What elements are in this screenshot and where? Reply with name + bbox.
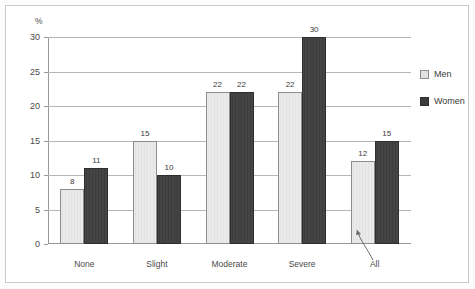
dark-gray-swatch-icon: [420, 97, 429, 106]
bar-all-women: [375, 141, 399, 245]
y-tick-mark: [44, 244, 48, 245]
legend-label-women: Women: [434, 97, 465, 106]
bar-moderate-men: [206, 92, 230, 244]
legend-item-men: Men: [420, 70, 472, 79]
x-category-label-moderate: Moderate: [190, 260, 270, 269]
y-tick-mark: [44, 141, 48, 142]
gridline: [48, 37, 411, 38]
y-tick-mark: [44, 72, 48, 73]
x-category-label-severe: Severe: [262, 260, 342, 269]
bar-all-men: [351, 161, 375, 244]
y-tick-label: 10: [6, 171, 40, 180]
bar-none-men: [60, 189, 84, 244]
gridline: [48, 72, 411, 73]
legend: Men Women: [420, 70, 472, 124]
y-tick-label: 0: [6, 240, 40, 249]
x-category-label-all: All: [335, 260, 415, 269]
bar-value-label: 15: [370, 130, 404, 138]
y-tick-label: 30: [6, 33, 40, 42]
bar-value-label: 15: [128, 130, 162, 138]
y-tick-label: 25: [6, 68, 40, 77]
bar-moderate-women: [230, 92, 254, 244]
light-gray-swatch-icon: [420, 70, 429, 79]
y-tick-mark: [44, 175, 48, 176]
legend-item-women: Women: [420, 97, 472, 106]
bar-none-women: [84, 168, 108, 244]
bar-slight-women: [157, 175, 181, 244]
y-tick-label: 20: [6, 102, 40, 111]
y-tick-mark: [44, 106, 48, 107]
y-tick-mark: [44, 37, 48, 38]
y-tick-label: 15: [6, 137, 40, 146]
bar-value-label: 22: [225, 81, 259, 89]
legend-label-men: Men: [434, 70, 452, 79]
bar-value-label: 10: [152, 164, 186, 172]
y-tick-mark: [44, 210, 48, 211]
y-tick-label: 5: [6, 206, 40, 215]
bar-value-label: 11: [79, 157, 113, 165]
bar-value-label: 30: [297, 26, 331, 34]
y-axis-unit-label: %: [35, 16, 43, 26]
x-category-label-none: None: [44, 260, 124, 269]
bar-severe-women: [302, 37, 326, 244]
chart-figure: % 051015202530811None1510Slight2222Moder…: [0, 0, 475, 289]
bar-severe-men: [278, 92, 302, 244]
x-category-label-slight: Slight: [117, 260, 197, 269]
bar-slight-men: [133, 141, 157, 245]
